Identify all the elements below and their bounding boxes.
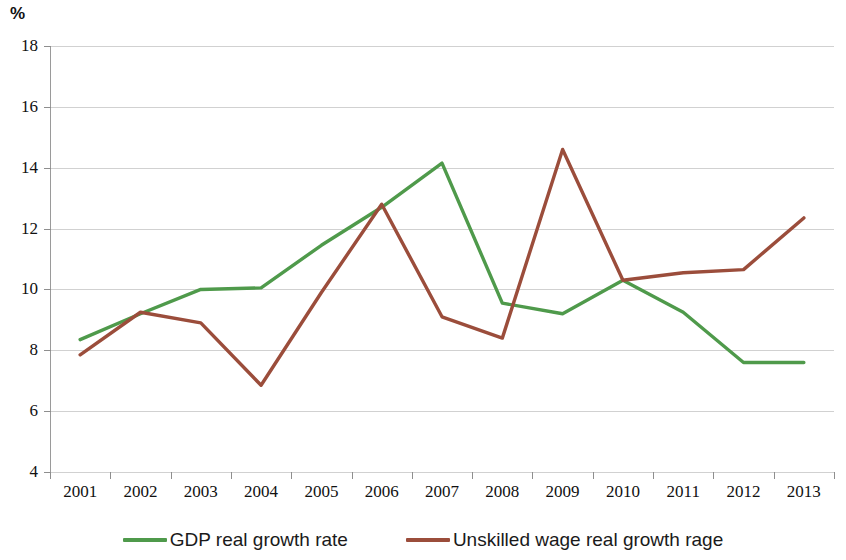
y-axis-tick-label: 16 bbox=[2, 97, 38, 117]
gridline bbox=[50, 46, 834, 47]
gridline bbox=[50, 411, 834, 412]
x-axis-tick-label: 2004 bbox=[244, 482, 278, 502]
x-axis-tick-label: 2009 bbox=[546, 482, 580, 502]
x-axis-tick bbox=[774, 472, 775, 479]
gridline bbox=[50, 168, 834, 169]
y-axis-line bbox=[50, 46, 51, 472]
x-axis-tick bbox=[532, 472, 533, 479]
series-line-1 bbox=[80, 163, 804, 362]
x-axis-tick-label: 2006 bbox=[365, 482, 399, 502]
x-axis-tick-label: 2008 bbox=[485, 482, 519, 502]
legend-item-1[interactable]: GDP real growth rate bbox=[123, 529, 348, 551]
y-axis-tick-label: 18 bbox=[2, 36, 38, 56]
legend-label: GDP real growth rate bbox=[170, 529, 348, 551]
legend-line-swatch-icon bbox=[123, 538, 167, 542]
y-axis-tick-label: 10 bbox=[2, 279, 38, 299]
x-axis-tick-label: 2012 bbox=[727, 482, 761, 502]
gridline bbox=[50, 472, 834, 473]
x-axis-tick-label: 2001 bbox=[63, 482, 97, 502]
x-axis-tick bbox=[412, 472, 413, 479]
y-axis-tick bbox=[44, 229, 51, 230]
y-axis-tick-label: 4 bbox=[2, 462, 38, 482]
legend-label: Unskilled wage real growth rage bbox=[453, 529, 723, 551]
series-plot bbox=[0, 0, 846, 560]
x-axis-tick-label: 2003 bbox=[184, 482, 218, 502]
y-axis-tick bbox=[44, 289, 51, 290]
y-axis-tick bbox=[44, 411, 51, 412]
y-axis-tick-label: 6 bbox=[2, 401, 38, 421]
y-axis-tick-label: 12 bbox=[2, 219, 38, 239]
x-axis-tick bbox=[352, 472, 353, 479]
x-axis-tick bbox=[653, 472, 654, 479]
y-axis-tick-label: 14 bbox=[2, 158, 38, 178]
y-axis-tick bbox=[44, 350, 51, 351]
gridline bbox=[50, 107, 834, 108]
gridline bbox=[50, 350, 834, 351]
x-axis-tick bbox=[472, 472, 473, 479]
x-axis-tick bbox=[834, 472, 835, 479]
chart-legend: GDP real growth rateUnskilled wage real … bbox=[0, 524, 846, 556]
gridline bbox=[50, 289, 834, 290]
y-axis-tick bbox=[44, 168, 51, 169]
x-axis-tick-label: 2013 bbox=[787, 482, 821, 502]
line-chart: % 4681012141618 200120022003200420052006… bbox=[0, 0, 846, 560]
x-axis-tick bbox=[50, 472, 51, 479]
y-axis-unit-label: % bbox=[10, 4, 25, 24]
x-axis-tick bbox=[110, 472, 111, 479]
x-axis-tick-label: 2007 bbox=[425, 482, 459, 502]
y-axis-tick bbox=[44, 46, 51, 47]
x-axis-tick bbox=[171, 472, 172, 479]
x-axis-tick-label: 2011 bbox=[667, 482, 700, 502]
gridline bbox=[50, 229, 834, 230]
x-axis-tick bbox=[713, 472, 714, 479]
y-axis-tick-label: 8 bbox=[2, 340, 38, 360]
x-axis-tick bbox=[593, 472, 594, 479]
y-axis-tick bbox=[44, 107, 51, 108]
x-axis-tick bbox=[231, 472, 232, 479]
x-axis-tick bbox=[291, 472, 292, 479]
x-axis-tick-label: 2005 bbox=[304, 482, 338, 502]
x-axis-tick-label: 2002 bbox=[123, 482, 157, 502]
legend-line-swatch-icon bbox=[406, 538, 450, 542]
legend-item-2[interactable]: Unskilled wage real growth rage bbox=[406, 529, 723, 551]
x-axis-tick-label: 2010 bbox=[606, 482, 640, 502]
